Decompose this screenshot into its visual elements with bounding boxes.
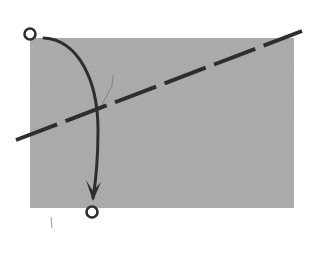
end-point-circle (87, 207, 98, 218)
shaded-region (30, 38, 294, 208)
start-point-circle (25, 29, 36, 40)
reflection-diagram (0, 0, 318, 255)
faint-tick-mark (51, 217, 52, 228)
